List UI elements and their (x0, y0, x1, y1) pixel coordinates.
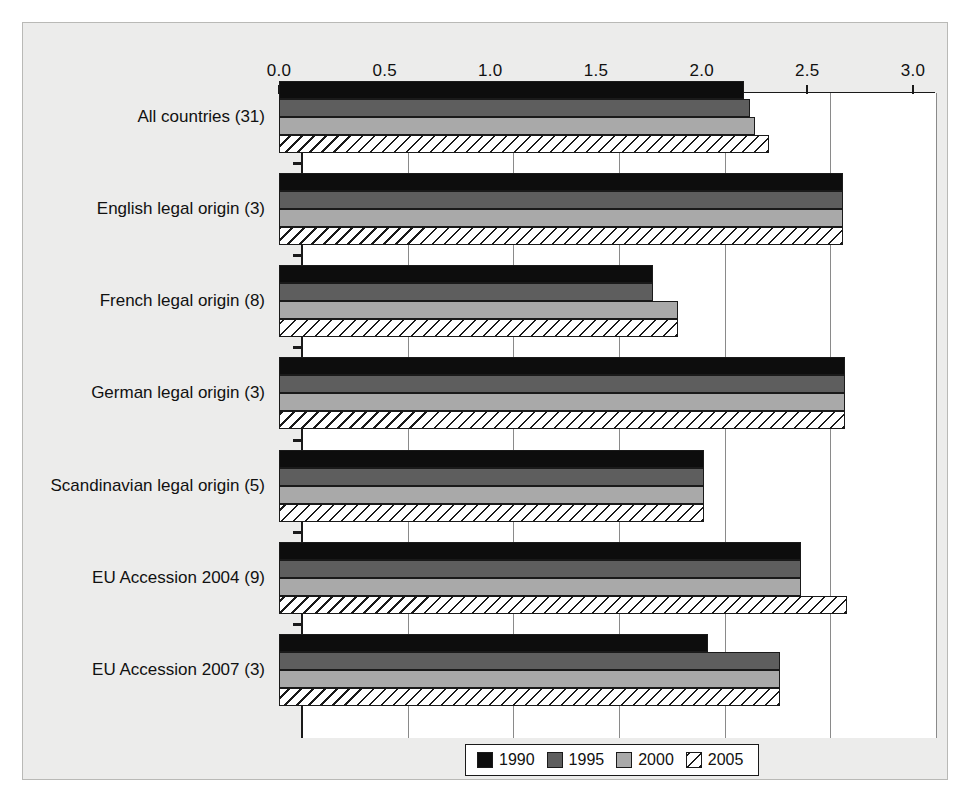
legend-swatch-icon (477, 752, 493, 768)
legend-label: 1995 (569, 751, 609, 769)
legend-label: 1990 (499, 751, 539, 769)
bar-2000-4 (279, 393, 845, 411)
legend-item-2000[interactable]: 2000 (616, 751, 678, 769)
legend-swatch-icon (686, 752, 702, 768)
category-label: German legal origin (3) (23, 384, 265, 401)
category-label: English legal origin (3) (23, 200, 265, 217)
bar-2005-7 (279, 688, 780, 706)
bar-2000-7 (279, 670, 780, 688)
bar-group: EU Accession 2004 (9) (23, 532, 657, 624)
bar-1995-5 (279, 468, 704, 486)
bar-2005-6 (279, 596, 847, 614)
bar-2005-3 (279, 319, 678, 337)
bar-group: French legal origin (8) (23, 255, 657, 347)
bar-2000-3 (279, 301, 678, 319)
bar-group: EU Accession 2007 (3) (23, 624, 657, 716)
bar-2000-6 (279, 578, 801, 596)
bar-1990-7 (279, 634, 708, 652)
bar-1995-1 (279, 99, 750, 117)
category-label: All countries (31) (23, 108, 265, 125)
chart-figure: 0.00.51.01.52.02.53.0 All countries (31)… (0, 0, 971, 803)
bar-2005-2 (279, 227, 843, 245)
bar-group: German legal origin (3) (23, 347, 657, 439)
legend-item-2005[interactable]: 2005 (686, 751, 748, 769)
x-axis-tick-label: 3.0 (901, 61, 926, 81)
bar-1995-6 (279, 560, 801, 578)
bar-group: All countries (31) (23, 71, 657, 163)
bar-1990-6 (279, 542, 801, 560)
x-axis-tick-label: 2.5 (795, 61, 820, 81)
bar-1990-5 (279, 450, 704, 468)
gridline (936, 93, 937, 738)
x-axis-tick-label: 2.0 (689, 61, 714, 81)
legend-swatch-icon (616, 752, 632, 768)
legend-item-1990[interactable]: 1990 (477, 751, 539, 769)
legend-label: 2000 (638, 751, 678, 769)
category-label: French legal origin (8) (23, 292, 265, 309)
x-axis-tick (912, 85, 914, 94)
bar-2005-1 (279, 135, 769, 153)
bar-2000-5 (279, 486, 704, 504)
legend-swatch-icon (547, 752, 563, 768)
bar-group: Scandinavian legal origin (5) (23, 440, 657, 532)
bar-1990-1 (279, 81, 744, 99)
bar-2005-5 (279, 504, 704, 522)
bar-2000-1 (279, 117, 755, 135)
category-label: Scandinavian legal origin (5) (23, 477, 265, 494)
bar-1995-7 (279, 652, 780, 670)
x-axis-tick (806, 85, 808, 94)
bar-1995-3 (279, 283, 653, 301)
bar-1990-2 (279, 173, 843, 191)
category-label: EU Accession 2007 (3) (23, 661, 265, 678)
bar-group: English legal origin (3) (23, 163, 657, 255)
bar-2005-4 (279, 411, 845, 429)
bar-1995-4 (279, 375, 845, 393)
bar-1995-2 (279, 191, 843, 209)
bar-1990-4 (279, 357, 845, 375)
category-label: EU Accession 2004 (9) (23, 569, 265, 586)
bar-1990-3 (279, 265, 653, 283)
legend-label: 2005 (708, 751, 748, 769)
chart-legend: 1990199520002005 (465, 744, 759, 776)
legend-item-1995[interactable]: 1995 (547, 751, 609, 769)
bar-2000-2 (279, 209, 843, 227)
chart-panel: 0.00.51.01.52.02.53.0 All countries (31)… (22, 22, 948, 780)
